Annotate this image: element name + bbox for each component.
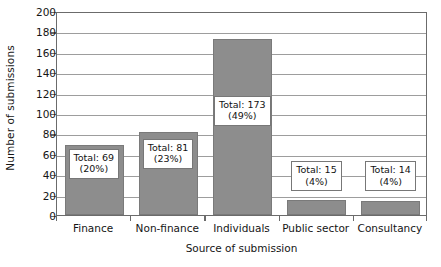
bar bbox=[287, 200, 346, 215]
x-category-label: Consultancy bbox=[353, 222, 427, 235]
x-category-label: Non-finance bbox=[130, 222, 204, 235]
bar-value-label: Total: 14(4%) bbox=[365, 161, 416, 191]
bar-value-total: Total: 173 bbox=[219, 99, 266, 110]
y-tick-label: 60 bbox=[26, 150, 56, 160]
gridline bbox=[57, 33, 426, 34]
y-axis-title-text: Number of submissions bbox=[4, 45, 16, 170]
y-tick-label: 120 bbox=[26, 89, 56, 99]
bar-value-percent: (49%) bbox=[219, 110, 266, 122]
x-axis-title: Source of submission bbox=[56, 242, 427, 254]
bar-value-total: Total: 14 bbox=[370, 164, 411, 175]
y-tick-label: 100 bbox=[26, 109, 56, 119]
bar bbox=[213, 39, 272, 215]
y-tick-label: 140 bbox=[26, 68, 56, 78]
y-axis-title: Number of submissions bbox=[0, 0, 20, 216]
x-category-label: Finance bbox=[56, 222, 130, 235]
y-tick-label: 40 bbox=[26, 170, 56, 180]
y-tick-label: 160 bbox=[26, 48, 56, 58]
x-tick-mark bbox=[204, 216, 205, 221]
x-category-label: Public sector bbox=[279, 222, 353, 235]
x-tick-mark bbox=[279, 216, 280, 221]
bar-value-total: Total: 15 bbox=[296, 164, 337, 175]
x-category-label: Individuals bbox=[204, 222, 278, 235]
y-tick-label: 200 bbox=[26, 7, 56, 17]
x-tick-mark bbox=[426, 216, 427, 221]
bar-value-total: Total: 81 bbox=[148, 142, 189, 153]
bar-value-label: Total: 15(4%) bbox=[291, 161, 342, 191]
bar-value-percent: (20%) bbox=[74, 163, 115, 175]
x-tick-mark bbox=[56, 216, 57, 221]
y-tick-label: 180 bbox=[26, 27, 56, 37]
y-axis-ticks: 020406080100120140160180200 bbox=[20, 12, 56, 216]
y-tick-label: 80 bbox=[26, 129, 56, 139]
y-tick-label: 20 bbox=[26, 191, 56, 201]
bar-value-label: Total: 81(23%) bbox=[143, 139, 194, 169]
bar-value-label: Total: 173(49%) bbox=[214, 96, 271, 126]
x-tick-mark bbox=[130, 216, 131, 221]
x-axis-category-labels: FinanceNon-financeIndividualsPublic sect… bbox=[56, 222, 427, 238]
plot-area: Total: 69(20%)Total: 81(23%)Total: 173(4… bbox=[56, 12, 427, 216]
bar-value-percent: (23%) bbox=[148, 153, 189, 165]
bar-value-percent: (4%) bbox=[296, 176, 337, 188]
bar-value-total: Total: 69 bbox=[74, 152, 115, 163]
bar-value-percent: (4%) bbox=[370, 176, 411, 188]
bar-chart: Number of submissions 020406080100120140… bbox=[0, 0, 441, 267]
x-tick-mark bbox=[353, 216, 354, 221]
bar-value-label: Total: 69(20%) bbox=[69, 149, 120, 179]
bar bbox=[361, 201, 420, 215]
y-tick-label: 0 bbox=[26, 211, 56, 221]
